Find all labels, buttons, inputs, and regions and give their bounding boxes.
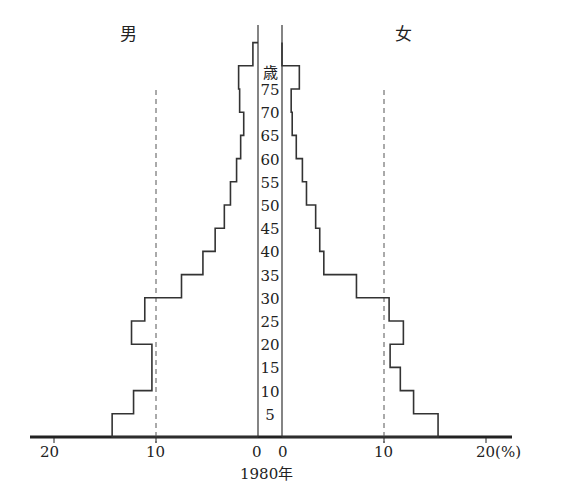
male-series-outline [112,43,258,437]
age-tick-label: 50 [260,197,279,215]
age-tick-label: 20 [260,336,279,354]
x-tick-right-10: 10 [374,443,393,461]
chart-canvas: 歳51015202530354045505560657075 [0,0,570,504]
age-tick-label: 10 [260,383,279,401]
x-tick-right-20: 20(%) [476,443,521,461]
female-label: 女 [395,20,412,45]
age-tick-label: 55 [260,174,279,192]
x-tick-left-20: 20 [40,443,59,461]
age-tick-label: 15 [260,359,279,377]
x-tick-left-0: 0 [252,443,262,461]
x-tick-left-10: 10 [146,443,165,461]
age-tick-label: 35 [260,267,279,285]
age-tick-label: 30 [260,290,279,308]
age-unit-label: 歳 [263,64,278,82]
x-tick-right-0: 0 [278,443,288,461]
age-tick-label: 65 [260,127,279,145]
age-tick-label: 60 [260,151,279,169]
age-tick-label: 75 [260,81,279,99]
female-series-outline [282,43,438,437]
age-tick-label: 70 [260,104,279,122]
age-tick-label: 40 [260,243,279,261]
male-label: 男 [120,20,137,45]
age-tick-label: 45 [260,220,279,238]
age-tick-label: 25 [260,313,279,331]
year-label: 1980年 [240,462,293,483]
age-tick-label: 5 [265,406,275,424]
